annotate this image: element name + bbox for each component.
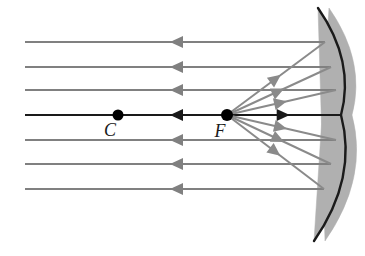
focal-point-marker — [221, 109, 233, 121]
center-of-curvature-marker — [113, 110, 124, 121]
concave-mirror-ray-diagram: CF — [0, 0, 365, 256]
focal-point-label: F — [214, 121, 227, 141]
optics-diagram-canvas: CF — [0, 0, 365, 256]
center-of-curvature-label: C — [104, 120, 117, 140]
